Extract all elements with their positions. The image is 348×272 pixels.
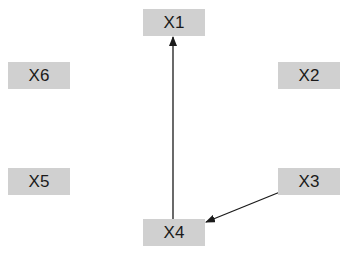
node-x2-label: X2 bbox=[299, 66, 320, 86]
node-x4: X4 bbox=[143, 219, 205, 246]
node-x6-label: X6 bbox=[29, 66, 50, 86]
node-x2: X2 bbox=[278, 62, 340, 89]
node-x1-label: X1 bbox=[164, 13, 185, 33]
node-x5: X5 bbox=[8, 168, 70, 195]
edge-x3-to-x4 bbox=[206, 192, 280, 222]
node-x4-label: X4 bbox=[164, 223, 185, 243]
node-x3-label: X3 bbox=[299, 172, 320, 192]
node-x1: X1 bbox=[143, 9, 205, 36]
node-x3: X3 bbox=[278, 168, 340, 195]
node-x5-label: X5 bbox=[29, 172, 50, 192]
node-x6: X6 bbox=[8, 62, 70, 89]
